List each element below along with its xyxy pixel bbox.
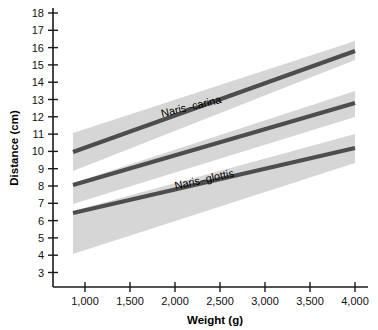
x-axis-title: Weight (g) xyxy=(187,314,243,326)
y-tick-label: 12 xyxy=(32,111,44,123)
x-tick-label: 2,500 xyxy=(206,295,234,307)
y-tick-label: 6 xyxy=(38,215,44,227)
y-tick-label: 14 xyxy=(32,76,44,88)
x-tick-label: 1,500 xyxy=(116,295,144,307)
y-axis-title: Distance (cm) xyxy=(8,110,20,186)
y-tick-label: 7 xyxy=(38,197,44,209)
y-tick-label: 15 xyxy=(32,59,44,71)
regression-chart: Naris–carina Naris–glottis 18 17 16 15 1… xyxy=(0,0,378,330)
y-tick-label: 9 xyxy=(38,163,44,175)
y-tick-label: 10 xyxy=(32,145,44,157)
x-tick-label: 1,000 xyxy=(71,295,99,307)
x-tick-label: 3,500 xyxy=(296,295,324,307)
y-tick-label: 13 xyxy=(32,94,44,106)
x-tick-label: 3,000 xyxy=(251,295,279,307)
y-tick-label: 4 xyxy=(38,249,44,261)
y-tick-label: 17 xyxy=(32,24,44,36)
figure-container: Naris–carina Naris–glottis 18 17 16 15 1… xyxy=(0,0,378,330)
y-tick-label: 3 xyxy=(38,267,44,279)
y-tick-label: 16 xyxy=(32,42,44,54)
x-tick-label: 4,000 xyxy=(341,295,369,307)
y-axis-ticks: 18 17 16 15 14 13 12 11 10 9 8 7 6 xyxy=(32,7,58,279)
y-tick-label: 5 xyxy=(38,232,44,244)
y-tick-label: 18 xyxy=(32,7,44,19)
x-axis-ticks: 1,000 1,500 2,000 2,500 3,000 3,500 4,00… xyxy=(71,282,369,307)
y-tick-label: 8 xyxy=(38,180,44,192)
x-tick-label: 2,000 xyxy=(161,295,189,307)
y-tick-label: 11 xyxy=(33,128,44,140)
